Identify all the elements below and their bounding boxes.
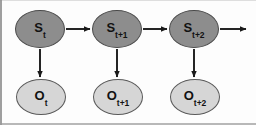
emission-arrow-group	[40, 49, 194, 77]
observation-node-label: Ot+2	[184, 89, 207, 105]
hmm-diagram: StSt+1St+2 OtOt+1Ot+2	[0, 0, 256, 125]
subscript: t+1	[115, 30, 128, 40]
symbol: S	[106, 20, 115, 35]
state-node: St	[15, 10, 65, 48]
observation-node-label: Ot	[35, 89, 48, 105]
observation-node: Ot	[16, 79, 66, 115]
subscript: t+2	[194, 98, 207, 108]
observation-node: Ot+2	[170, 79, 220, 115]
subscript: t+2	[192, 30, 205, 40]
state-node-label: St+2	[183, 21, 204, 37]
observation-node-label: Ot+1	[107, 89, 130, 105]
state-node-label: St+1	[106, 21, 127, 37]
symbol: O	[184, 88, 194, 103]
symbol: O	[35, 88, 45, 103]
subscript: t	[43, 30, 46, 40]
symbol: O	[107, 88, 117, 103]
subscript: t+1	[117, 98, 130, 108]
state-node: St+2	[169, 10, 219, 48]
subscript: t	[45, 98, 48, 108]
state-node: St+1	[92, 10, 142, 48]
symbol: S	[34, 20, 43, 35]
state-node-label: St	[34, 21, 46, 37]
symbol: S	[183, 20, 192, 35]
observation-node: Ot+1	[93, 79, 143, 115]
